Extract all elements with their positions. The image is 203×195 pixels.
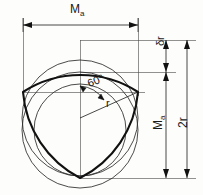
dimension-2r (184, 40, 190, 178)
arrowhead-ma-top-left (23, 22, 32, 28)
label-ma-top-sub: a (80, 9, 84, 18)
label-ma-side-base: M (151, 120, 165, 130)
label-ma-side-sub: a (158, 116, 167, 120)
arrowhead-2r-bottom (184, 169, 190, 178)
label-ma-side: Ma (152, 116, 167, 130)
arrowhead-delta-r-bottom (163, 63, 169, 72)
figure-canvas: Ma δr Ma 2r 60° r (0, 0, 203, 195)
label-ma-top: Ma (70, 3, 84, 18)
arrowhead-ma-top-right (129, 22, 138, 28)
label-2r: 2r (177, 117, 189, 128)
arrowhead-ma-side-bottom (163, 169, 169, 178)
label-radius-r: r (106, 98, 110, 109)
arrowhead-ma-side-top (163, 72, 169, 81)
technical-drawing-svg (0, 0, 203, 195)
angle-arrowhead-lower (98, 94, 104, 100)
dimension-ma-top (23, 18, 138, 32)
arrowhead-2r-top (184, 40, 190, 49)
reuleaux-triangle-outline (23, 75, 138, 178)
label-ma-top-base: M (70, 2, 80, 16)
label-delta-r: δr (155, 36, 166, 46)
